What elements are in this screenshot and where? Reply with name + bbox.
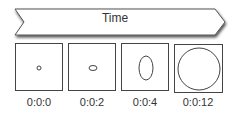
frame-label-2: 0:0:4	[115, 96, 175, 108]
circle-icon	[16, 44, 64, 92]
frame-label-1: 0:0:2	[62, 96, 122, 108]
time-label: Time	[20, 10, 210, 26]
frame-0	[15, 43, 63, 91]
frame-1	[68, 43, 116, 91]
circle-icon	[175, 45, 224, 94]
ellipse-icon	[122, 44, 170, 92]
frame-2	[121, 43, 169, 91]
frame-label-0: 0:0:0	[9, 96, 69, 108]
frame-3	[174, 44, 223, 93]
ellipse-icon	[69, 44, 117, 92]
frame-label-3: 0:0:12	[168, 96, 228, 108]
